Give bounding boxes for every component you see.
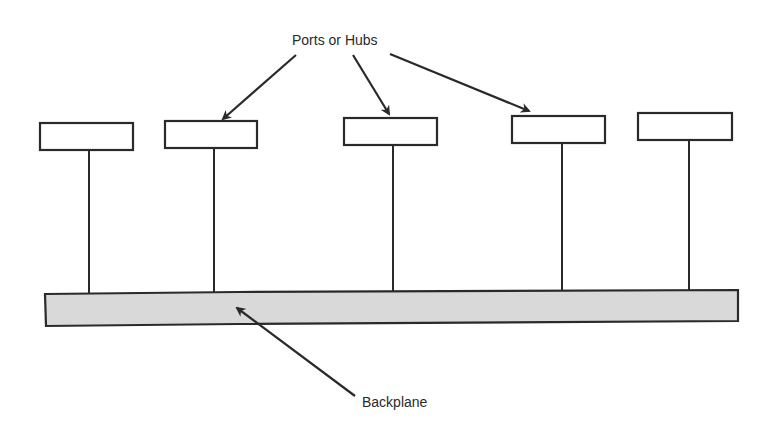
arrow-to-port-3 <box>353 55 389 114</box>
port-stems <box>89 140 689 294</box>
port-box-5 <box>638 113 732 140</box>
ports-or-hubs-label: Ports or Hubs <box>292 32 378 48</box>
port-box-2 <box>165 121 257 148</box>
diagram-svg <box>0 0 770 428</box>
arrows <box>223 54 529 396</box>
port-box-1 <box>40 123 133 150</box>
port-boxes <box>40 113 732 150</box>
diagram-canvas: Ports or Hubs Backplane <box>0 0 770 428</box>
backplane-label: Backplane <box>362 394 427 410</box>
port-box-3 <box>344 118 437 145</box>
arrow-to-port-4 <box>390 54 529 111</box>
backplane-bar <box>45 290 738 326</box>
arrow-to-port-2 <box>223 55 296 119</box>
port-box-4 <box>512 116 605 143</box>
